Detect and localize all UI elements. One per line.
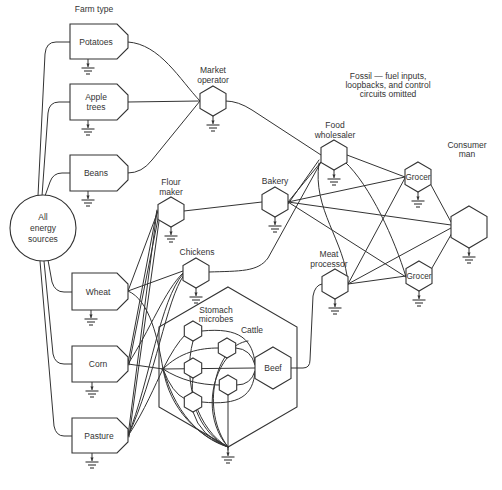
edge-bakery-consumer [288, 202, 451, 225]
microbe-hexagon [219, 375, 236, 395]
edge-beans-market [128, 101, 200, 173]
microbe-edges [163, 330, 255, 447]
ground-icon [413, 291, 426, 306]
edge-junction-beef [163, 368, 255, 369]
edge-flour-bakery [184, 202, 262, 211]
edge-pasture-chickens [128, 274, 183, 436]
ground-icon [329, 299, 342, 314]
farm-beans: Beans [70, 155, 128, 206]
edge-wheat-chickens [128, 271, 183, 291]
hexagon-node [158, 197, 184, 227]
farm-type-heading: Farm type [75, 4, 114, 14]
node-market-operator: Market operator [197, 65, 229, 131]
farm-potatoes: Potatoes [70, 24, 128, 74]
microbe-hexagon [184, 321, 201, 341]
energy-source-label: energy [30, 223, 57, 233]
energy-source-label: All [38, 212, 48, 222]
node-beef: Beef [255, 347, 291, 389]
hexagon-node [183, 258, 209, 288]
edge-corn-cattle [128, 364, 163, 369]
node-label: man [459, 149, 476, 159]
omission-note-line: circuits omitted [360, 89, 417, 99]
hexagon-node [321, 140, 347, 170]
energy-source-label: sources [28, 234, 58, 244]
edge-source-beans [45, 173, 70, 196]
microbe-hexagon [184, 358, 201, 378]
node-label: processor [310, 259, 347, 269]
edge-bakery-wholesaler [288, 160, 319, 204]
farm-apple-trees: Apple trees [70, 84, 128, 135]
hexagon-node [200, 86, 226, 116]
hexagon-node [322, 269, 348, 299]
node-label: maker [159, 187, 183, 197]
ground-icon [82, 120, 95, 135]
edge-meat-grocer-lower [348, 276, 406, 284]
farm-label: trees [87, 102, 106, 112]
node-bakery: Bakery [262, 176, 289, 232]
node-flour-maker: Flour maker [158, 177, 184, 242]
omission-note: Fossil — fuel inputs, loopbacks, and con… [345, 71, 430, 99]
ground-icon [328, 170, 341, 185]
node-label: Grocer [406, 272, 431, 281]
node-food-wholesaler: Food wholesaler [314, 120, 356, 185]
farm-pasture: Pasture [72, 418, 128, 468]
farm-corn: Corn [72, 346, 128, 397]
edge-source-corn [44, 261, 72, 364]
edge-wheat-flour [128, 211, 158, 291]
node-label: Market [200, 65, 227, 75]
ground-icon [86, 382, 99, 397]
edge-grocer-lower-consumer [432, 233, 452, 268]
node-label: Meat [320, 249, 340, 259]
microbe-hexagon [218, 338, 235, 358]
ground-icon [269, 217, 282, 232]
edge-source-pasture [40, 261, 72, 436]
edge-market-wholesaler [226, 101, 321, 155]
node-label: Chickens [180, 247, 215, 257]
node-grocer-upper: Grocer [405, 162, 431, 207]
ground-icon [165, 227, 178, 242]
farm-label: Pasture [84, 431, 114, 441]
farm-wheat: Wheat [72, 273, 128, 325]
edge-junction-microbe [163, 335, 185, 369]
node-label: Beef [264, 363, 282, 373]
edge-grocer-upper-consumer [431, 185, 451, 222]
cattle-subsystem: Stomach microbes Cattle [159, 287, 297, 463]
microbes-label: microbes [199, 314, 233, 324]
ground-icon [190, 288, 203, 303]
microbe-hexagon [184, 392, 201, 412]
energy-source-node: All energy sources [10, 195, 76, 261]
farm-label: Wheat [86, 287, 111, 297]
energy-flow-diagram: Farm type Fossil — fuel inputs, loopback… [0, 0, 502, 490]
ground-icon [82, 59, 95, 74]
ground-icon [207, 116, 220, 131]
node-grocer-lower: Grocer [406, 261, 432, 306]
node-consumer: Consumer man [447, 140, 487, 263]
edge-potatoes-market [128, 42, 200, 101]
edge-source-apple-trees [42, 102, 70, 196]
input-junction-dot [161, 367, 164, 370]
hexagon-node [262, 187, 288, 217]
ground-icon [463, 248, 476, 263]
ground-icon [85, 310, 98, 325]
node-chickens: Chickens [180, 247, 215, 303]
edge-apple-market [128, 101, 200, 102]
node-meat-processor: Meat processor [310, 249, 348, 314]
farm-label: Potatoes [79, 37, 113, 47]
ground-icon [412, 192, 425, 207]
ground-icon [86, 453, 99, 468]
ground-icon [82, 191, 95, 206]
hexagon-node [451, 206, 487, 248]
edge-source-wheat [48, 260, 72, 292]
node-label: Bakery [262, 176, 289, 186]
farm-label: Beans [84, 168, 108, 178]
node-label: Food [325, 120, 345, 130]
node-label: Flour [161, 177, 181, 187]
farm-label: Corn [89, 359, 108, 369]
cattle-label: Cattle [241, 325, 263, 335]
node-label: wholesaler [314, 130, 356, 140]
farm-label: Apple [85, 92, 107, 102]
node-label: operator [197, 75, 229, 85]
node-label: Grocer [405, 173, 430, 182]
